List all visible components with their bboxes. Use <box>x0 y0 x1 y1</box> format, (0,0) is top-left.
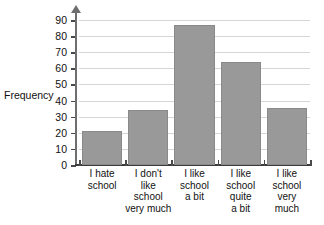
x-axis-label-line: like <box>122 180 174 192</box>
bar-chart: Frequency 0102030405060708090 I hatescho… <box>0 0 324 225</box>
x-axis-label: I hateschool <box>76 168 128 191</box>
y-axis-tick-label: 40 <box>41 96 67 106</box>
x-axis-tick <box>310 160 312 166</box>
x-axis-label-line: very much <box>122 203 174 215</box>
y-axis-tick-label: 70 <box>41 47 67 57</box>
x-axis-tick <box>218 160 220 166</box>
x-axis-tick <box>171 160 173 166</box>
x-axis-label-line: I like <box>168 168 220 180</box>
y-axis-tick-label: 30 <box>41 112 67 122</box>
x-axis-label-line: much <box>261 203 313 215</box>
y-axis-tick-label: 90 <box>41 15 67 25</box>
x-axis-label-line: I like <box>215 168 267 180</box>
bar <box>267 108 307 165</box>
x-axis-label: I likeschoola bit <box>168 168 220 203</box>
y-axis-tick-label: 0 <box>41 160 67 170</box>
y-axis-tick-label: 10 <box>41 144 67 154</box>
x-axis-label-line: quite <box>215 191 267 203</box>
x-axis-tick <box>79 160 81 166</box>
y-axis-tick-label: 60 <box>41 63 67 73</box>
x-axis-label-line: a bit <box>215 203 267 215</box>
y-axis-tick-label: 20 <box>41 128 67 138</box>
bar <box>174 25 214 165</box>
x-axis-label: I likeschoolverymuch <box>261 168 313 214</box>
x-axis-label-line: school <box>76 180 128 192</box>
x-axis-label: I don'tlikeschoolvery much <box>122 168 174 214</box>
x-axis-label-line: school <box>261 180 313 192</box>
x-axis-label: I likeschoolquitea bit <box>215 168 267 214</box>
x-axis-labels: I hateschoolI don'tlikeschoolvery muchI … <box>79 168 314 223</box>
bar <box>221 62 261 165</box>
x-axis-label-line: I hate <box>76 168 128 180</box>
x-axis-tick <box>125 160 127 166</box>
x-axis-label-line: a bit <box>168 191 220 203</box>
x-axis-label-line: school <box>215 180 267 192</box>
x-axis-label-line: school <box>168 180 220 192</box>
bar <box>128 110 168 165</box>
y-axis-tick-label: 80 <box>41 31 67 41</box>
bar <box>82 131 122 165</box>
y-axis-tick-label: 50 <box>41 79 67 89</box>
x-axis-label-line: very <box>261 191 313 203</box>
bar-series <box>79 12 310 165</box>
x-axis-label-line: school <box>122 191 174 203</box>
y-axis-line <box>75 12 77 165</box>
x-axis-label-line: I don't <box>122 168 174 180</box>
x-axis-label-line: I like <box>261 168 313 180</box>
x-axis-tick <box>264 160 266 166</box>
